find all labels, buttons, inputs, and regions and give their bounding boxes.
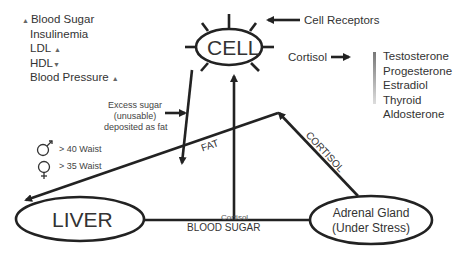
excess-sugar-line3: deposited as fat — [104, 122, 166, 133]
list-item: ▲Blood Sugar — [30, 14, 119, 29]
down-arrow-icon: ▼ — [53, 61, 60, 68]
female-symbol-icon — [39, 162, 50, 180]
symptom-list: ▲Blood Sugar Insulinemia LDL ▲ HDL▼ Bloo… — [30, 14, 119, 87]
excess-sugar-line1: Excess sugar — [104, 100, 166, 111]
blood-sugar-edge-label: BLOOD SUGAR — [187, 223, 260, 233]
hormone-item: Estradiol — [383, 80, 452, 95]
cell-label: CELL — [207, 37, 260, 58]
female-waist-label: > 35 Waist — [59, 162, 101, 171]
excess-sugar-note: Excess sugar (unusable) deposited as fat — [104, 100, 166, 133]
list-item: HDL▼ — [30, 58, 119, 73]
adrenal-label-line1: Adrenal Gland — [330, 206, 412, 221]
up-arrow-icon: ▲ — [22, 17, 29, 24]
up-arrow-icon: ▲ — [112, 75, 119, 82]
hormone-item: Thyroid — [383, 95, 452, 110]
adrenal-label: Adrenal Gland (Under Stress) — [330, 206, 412, 236]
cortisol-label: Cortisol — [288, 52, 327, 64]
gradient-bar — [373, 52, 376, 104]
adrenal-label-line2: (Under Stress) — [330, 221, 412, 236]
hormone-item: Aldosterone — [383, 109, 452, 124]
cell-receptors-label: Cell Receptors — [304, 15, 379, 27]
up-arrow-icon: ▲ — [54, 46, 61, 53]
male-symbol-icon — [38, 141, 53, 156]
list-item: Blood Pressure ▲ — [30, 72, 119, 87]
hormone-item: Testosterone — [383, 51, 452, 66]
excess-sugar-line2: (unusable) — [104, 111, 166, 122]
liver-label: LIVER — [52, 209, 113, 230]
list-item: LDL ▲ — [30, 43, 119, 58]
list-item: Insulinemia — [30, 29, 119, 44]
hormone-item: Progesterone — [383, 66, 452, 81]
cortisol-overlap-label: Cortisol — [221, 214, 248, 222]
hormone-list: Testosterone Progesterone Estradiol Thyr… — [383, 51, 452, 124]
male-waist-label: > 40 Waist — [59, 145, 101, 154]
